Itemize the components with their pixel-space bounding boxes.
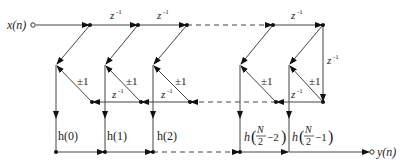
svg-text:z: z <box>156 9 162 21</box>
svg-text:N: N <box>256 124 265 135</box>
svg-text:-1: -1 <box>333 53 339 61</box>
svg-text:h(2): h(2) <box>157 129 177 143</box>
svg-text:-1: -1 <box>118 87 124 95</box>
svg-text:): ) <box>281 128 286 146</box>
svg-text:-1: -1 <box>167 87 173 95</box>
output-label: y(n) <box>376 145 396 159</box>
svg-text:±1: ±1 <box>77 75 89 87</box>
svg-text:2: 2 <box>258 136 263 147</box>
svg-text:-1: -1 <box>163 8 169 16</box>
svg-text:−1: −1 <box>315 131 327 143</box>
svg-text:h: h <box>292 130 298 144</box>
svg-text:-1: -1 <box>116 8 122 16</box>
svg-text:z: z <box>290 9 296 21</box>
output-terminal <box>370 150 374 154</box>
svg-text:(: ( <box>299 128 304 146</box>
svg-text:±1: ±1 <box>126 75 138 87</box>
fir-structure-diagram: x(n) y(n) z-1 z-1 z-1 z-1 z-1 z-1 z-1 ±1… <box>0 0 402 163</box>
svg-text:): ) <box>328 128 333 146</box>
svg-text:(: ( <box>251 128 256 146</box>
svg-text:z: z <box>290 88 296 100</box>
svg-text:z: z <box>160 88 166 100</box>
svg-text:-1: -1 <box>297 8 303 16</box>
svg-text:N: N <box>304 124 313 135</box>
svg-text:z: z <box>109 9 115 21</box>
input-terminal <box>31 23 35 27</box>
svg-text:2: 2 <box>306 136 311 147</box>
svg-text:h(0): h(0) <box>58 129 78 143</box>
svg-text:z: z <box>326 54 332 66</box>
svg-text:±1: ±1 <box>175 75 187 87</box>
svg-text:h: h <box>244 130 250 144</box>
svg-text:±1: ±1 <box>261 75 273 87</box>
svg-text:±1: ±1 <box>309 75 321 87</box>
svg-text:-1: -1 <box>297 87 303 95</box>
svg-text:h(1): h(1) <box>107 129 127 143</box>
input-label: x(n) <box>6 18 26 32</box>
svg-text:−2: −2 <box>267 131 279 143</box>
svg-text:z: z <box>111 88 117 100</box>
